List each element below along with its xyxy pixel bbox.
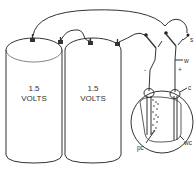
label-plus: + <box>178 66 182 73</box>
battery-1: 1.5 VOLTS <box>6 34 63 163</box>
switch-assembly: s w - + <box>144 31 194 92</box>
battery-2: 1.5 VOLTS <box>65 38 121 163</box>
wires <box>33 10 187 42</box>
battery-2-voltage: 1.5 <box>87 84 99 93</box>
water-container: c pc wc <box>131 84 193 153</box>
label-connector: c <box>188 84 192 91</box>
label-water-container: wc <box>183 139 193 146</box>
battery-2-edge-terminal <box>115 39 120 46</box>
label-switch: s <box>190 36 194 43</box>
label-minus: - <box>144 66 146 73</box>
label-wire: w <box>183 57 189 64</box>
battery-circuit-diagram: 1.5 VOLTS 1.5 VOLTS <box>0 0 195 172</box>
battery-2-unit: VOLTS <box>80 94 106 103</box>
battery-1-unit: VOLTS <box>21 94 47 103</box>
battery-2-center-terminal <box>88 38 93 45</box>
battery-1-center-terminal <box>30 34 35 42</box>
plate-coating-dots <box>151 99 159 134</box>
label-plate-coating: pc <box>137 144 145 152</box>
battery-1-voltage: 1.5 <box>28 84 40 93</box>
